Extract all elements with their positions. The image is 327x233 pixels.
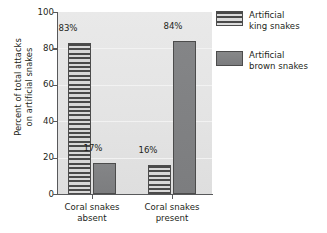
legend-item-brown-snakes[interactable]: Artificial brown snakes — [216, 50, 308, 71]
legend-label-king-snakes: Artificial king snakes — [249, 10, 300, 31]
x-axis-label-absent-line2: absent — [46, 213, 138, 224]
legend-label-brown-snakes: Artificial brown snakes — [249, 50, 308, 71]
legend-swatch-striped-icon — [216, 11, 243, 26]
bar-value-absent-brown-snakes: 17% — [71, 144, 115, 153]
legend-label-brown-snakes-line2: brown snakes — [249, 61, 308, 72]
x-axis-label-absent: Coral snakes absent — [46, 202, 138, 224]
y-axis-title-line1: Percent of total attacks — [13, 0, 24, 177]
y-tick-label-100: 100 — [30, 8, 54, 17]
y-tick-label-80: 80 — [30, 44, 54, 53]
bar-value-absent-king-snakes: 83% — [46, 24, 90, 33]
x-axis-line — [57, 194, 213, 195]
legend-item-king-snakes[interactable]: Artificial king snakes — [216, 10, 300, 31]
bar-value-present-brown-snakes: 84% — [151, 22, 195, 31]
bar-present-king-snakes — [148, 165, 171, 194]
bar-chart-figure: Percent of total attacks on artificial s… — [0, 0, 327, 233]
y-tick-label-0: 0 — [30, 190, 54, 199]
bar-present-brown-snakes — [173, 41, 196, 194]
plot-area — [58, 12, 212, 194]
x-axis-label-present: Coral snakes present — [126, 202, 218, 224]
x-axis-label-present-line2: present — [126, 213, 218, 224]
bar-absent-king-snakes — [68, 43, 91, 194]
y-tick-label-40: 40 — [30, 117, 54, 126]
legend-label-king-snakes-line2: king snakes — [249, 21, 300, 32]
x-tick-mark-present — [172, 195, 173, 199]
y-tick-label-60: 60 — [30, 80, 54, 89]
bar-absent-brown-snakes — [93, 163, 116, 194]
y-axis-line — [57, 12, 58, 195]
y-tick-label-20: 20 — [30, 153, 54, 162]
legend-label-brown-snakes-line1: Artificial — [249, 50, 308, 61]
x-tick-mark-absent — [92, 195, 93, 199]
x-axis-label-present-line1: Coral snakes — [126, 202, 218, 213]
bar-value-present-king-snakes: 16% — [126, 146, 170, 155]
legend-label-king-snakes-line1: Artificial — [249, 10, 300, 21]
legend-swatch-solid-icon — [216, 51, 243, 66]
x-axis-label-absent-line1: Coral snakes — [46, 202, 138, 213]
